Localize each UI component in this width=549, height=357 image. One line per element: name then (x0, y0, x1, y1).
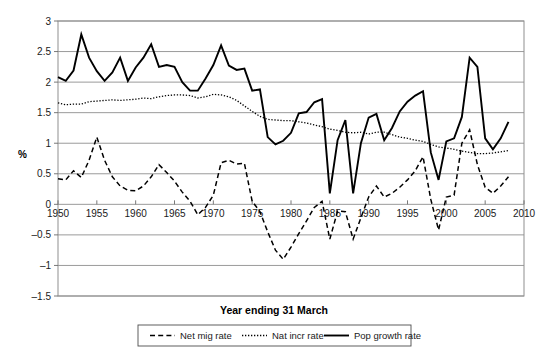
y-tick-label: –1.5 (32, 291, 52, 302)
series-line-net-mig-rate (58, 130, 508, 260)
y-tick-label: 1.5 (37, 107, 51, 118)
legend-label: Pop growth rate (354, 330, 421, 341)
x-tick-label: 1995 (396, 208, 419, 219)
chart-title: Year ending 31 March (220, 304, 328, 316)
series-line-nat-incr-rate (58, 94, 508, 153)
x-tick-label: 1955 (86, 208, 109, 219)
y-tick-label: 2.5 (37, 46, 51, 57)
y-axis-label: % (18, 149, 27, 160)
y-tick-label: 0.5 (37, 168, 51, 179)
x-tick-label: 1985 (319, 208, 342, 219)
x-axis-tick-labels: 1950195519601965197019751980198519901995… (47, 200, 536, 219)
y-axis-tick-labels: 32.521.510.50–0.5–1–1.5 (32, 16, 58, 302)
chart-container: 32.521.510.50–0.5–1–1.5 1950195519601965… (0, 0, 549, 357)
x-tick-label: 1960 (125, 208, 148, 219)
x-tick-label: 2000 (435, 208, 458, 219)
x-tick-label: 1965 (163, 208, 186, 219)
y-tick-label: –1 (40, 260, 52, 271)
x-tick-label: 2010 (513, 208, 536, 219)
y-tick-label: –0.5 (32, 229, 52, 240)
legend-label: Net mig rate (180, 330, 232, 341)
y-tick-label: 1 (45, 138, 51, 149)
plot-frame (58, 21, 524, 296)
population-rates-line-chart: 32.521.510.50–0.5–1–1.5 1950195519601965… (0, 0, 549, 357)
x-tick-label: 1950 (47, 208, 70, 219)
legend-label: Nat incr rate (272, 330, 324, 341)
y-tick-label: 3 (45, 16, 51, 27)
y-tick-label: 2 (45, 77, 51, 88)
data-series (58, 34, 508, 259)
x-tick-label: 1970 (202, 208, 225, 219)
x-tick-label: 1980 (280, 208, 303, 219)
x-tick-label: 1990 (358, 208, 381, 219)
plot-border (58, 21, 524, 296)
gridlines (58, 21, 524, 296)
x-tick-label: 2005 (474, 208, 497, 219)
chart-legend: Net mig rateNat incr ratePop growth rate (138, 325, 421, 346)
series-line-pop-growth-rate (58, 34, 508, 193)
